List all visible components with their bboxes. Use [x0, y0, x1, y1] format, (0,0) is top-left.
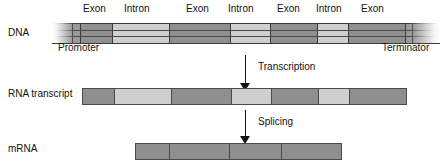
splicing-label: Splicing [258, 116, 293, 127]
segment-exon [271, 89, 318, 104]
segment-intron [114, 89, 171, 104]
splicing-arrow [240, 110, 251, 144]
segment-exon [270, 24, 317, 43]
segment-exon [169, 24, 230, 43]
dna-top-label: Exon [361, 3, 384, 14]
segment-exon [349, 89, 406, 104]
segment-exon [80, 24, 112, 43]
segment-intron [318, 89, 349, 104]
dna-top-label: Exon [186, 3, 209, 14]
segment-exon [169, 144, 229, 159]
segment-intron [231, 89, 271, 104]
row-label-mrna: mRNA [8, 143, 37, 154]
arrow-shaft [245, 55, 246, 83]
mrna-bar [135, 143, 342, 160]
segment-flank [52, 24, 72, 43]
dna-top-label: Exon [277, 3, 300, 14]
rna-transcript-bar [82, 88, 407, 105]
segment-exon [83, 89, 114, 104]
arrow-shaft [245, 110, 246, 136]
transcription-label: Transcription [258, 61, 315, 72]
segment-exon [229, 144, 281, 159]
terminator-label: Terminator [382, 42, 429, 53]
segment-intron [230, 24, 270, 43]
transcription-arrow [240, 55, 251, 91]
row-label-dna: DNA [8, 27, 29, 38]
row-label-rna-transcript: RNA transcript [8, 88, 72, 99]
segment-intron [317, 24, 348, 43]
segment-terminator [405, 24, 412, 43]
dna-top-label: Intron [228, 3, 254, 14]
segment-intron [112, 24, 169, 43]
segment-exon [171, 89, 231, 104]
dna-strand-bar [52, 23, 440, 44]
promoter-label: Promoter [58, 42, 99, 53]
segment-promoter [72, 24, 80, 43]
dna-top-label: Exon [83, 3, 106, 14]
segment-exon [348, 24, 405, 43]
segment-flank [412, 24, 440, 43]
segment-exon [281, 144, 341, 159]
dna-top-label: Intron [124, 3, 150, 14]
dna-top-label: Intron [316, 3, 342, 14]
diagram-canvas: Exon Intron Exon Intron Exon Intron Exon… [0, 0, 443, 167]
segment-exon [136, 144, 169, 159]
